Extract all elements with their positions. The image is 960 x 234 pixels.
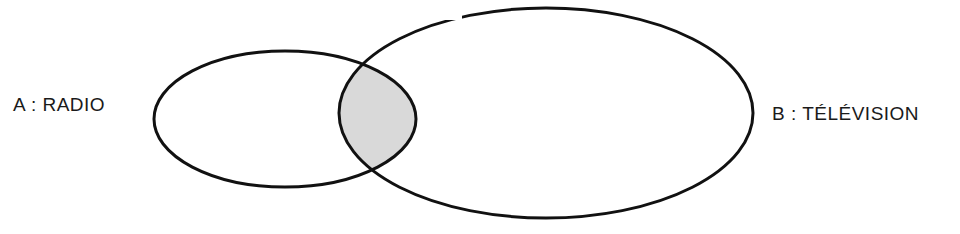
set-a-label: A : RADIO <box>13 94 105 116</box>
set-b-label: B : TÉLÉVISION <box>772 103 919 125</box>
